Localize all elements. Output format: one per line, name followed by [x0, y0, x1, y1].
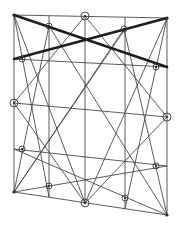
node-center-dot — [155, 165, 157, 167]
geometric-construction-diagram — [0, 0, 180, 226]
construction-lines — [14, 15, 167, 215]
node-center-dot — [123, 28, 125, 30]
node-center-dot — [155, 66, 157, 68]
node-center-dot — [21, 148, 23, 150]
corner-dot — [165, 213, 168, 216]
node-center-dot — [13, 102, 15, 104]
corner-dot — [12, 190, 15, 193]
corner-dot — [165, 16, 168, 19]
node-center-dot — [166, 116, 168, 118]
node-center-dot — [84, 202, 86, 204]
node-center-dot — [48, 25, 50, 27]
node-center-dot — [48, 185, 50, 187]
node-center-dot — [124, 197, 126, 199]
construction-line — [124, 29, 167, 215]
corner-dot — [12, 13, 15, 16]
node-center-dot — [84, 15, 86, 17]
node-center-dot — [21, 58, 23, 60]
